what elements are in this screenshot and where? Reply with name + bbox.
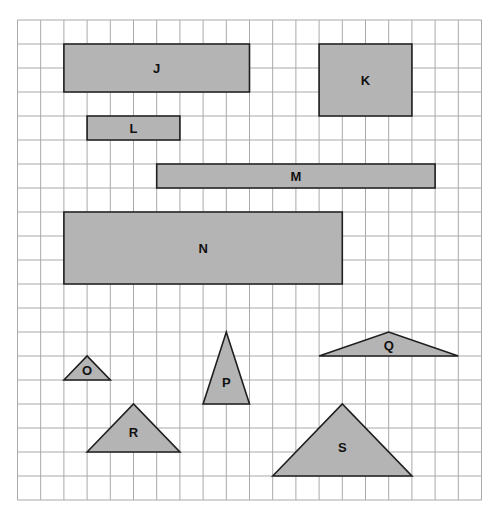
shape-label: K bbox=[361, 73, 371, 88]
shape-label: P bbox=[222, 375, 231, 390]
grid-canvas: JKLMNOPQRS bbox=[0, 0, 498, 514]
shape-label: J bbox=[153, 61, 160, 76]
shape-p: P bbox=[203, 332, 249, 404]
shape-label: N bbox=[198, 241, 207, 256]
shape-l: L bbox=[87, 116, 180, 140]
shape-o: O bbox=[64, 356, 110, 380]
shape-j: J bbox=[64, 44, 250, 92]
shape-label: S bbox=[338, 440, 347, 455]
triangle-p bbox=[203, 332, 249, 404]
shape-label: O bbox=[82, 363, 92, 378]
shape-q: Q bbox=[319, 332, 458, 356]
shape-k: K bbox=[319, 44, 412, 116]
shape-n: N bbox=[64, 212, 342, 284]
shape-s: S bbox=[273, 404, 412, 476]
shape-m: M bbox=[157, 164, 435, 188]
shape-label: L bbox=[130, 121, 138, 136]
shape-label: R bbox=[129, 425, 139, 440]
shape-label: Q bbox=[384, 338, 394, 353]
grid-diagram: JKLMNOPQRS bbox=[0, 0, 498, 514]
shape-label: M bbox=[290, 169, 301, 184]
